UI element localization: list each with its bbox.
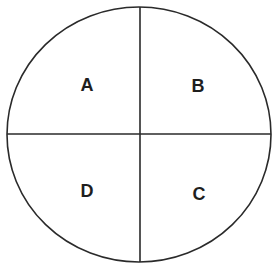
quadrant-label-top-right: B [192,76,205,96]
quadrant-circle-diagram: A B C D [0,0,275,269]
quadrant-label-top-left: A [81,75,94,95]
quadrant-label-bottom-left: D [81,181,94,201]
quadrant-label-bottom-right: C [193,184,206,204]
diagram-canvas: A B C D [0,0,275,269]
